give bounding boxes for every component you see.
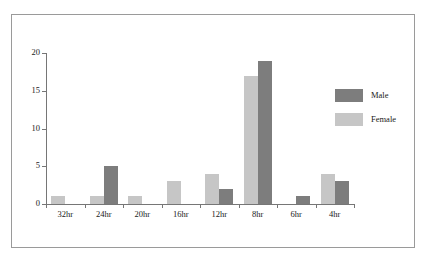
y-tick-label: 10 [32, 123, 41, 134]
bar-group-20hr [123, 53, 162, 204]
legend-label-male: Male [371, 90, 388, 101]
x-tick-mark [46, 204, 47, 208]
y-tick-label: 0 [36, 198, 40, 209]
legend-swatch-female [335, 113, 363, 126]
x-tick-mark [277, 204, 278, 208]
bar-group-8hr [239, 53, 278, 204]
bar-group-32hr [46, 53, 85, 204]
x-axis-label-8hr: 8hr [239, 209, 278, 220]
bar-group-4hr [316, 53, 355, 204]
bar-group-24hr [85, 53, 124, 204]
x-axis-label-4hr: 4hr [316, 209, 355, 220]
bar-20hr-female [128, 196, 142, 204]
legend-swatch-male [335, 89, 363, 102]
bar-group-16hr [162, 53, 201, 204]
x-tick-mark [85, 204, 86, 208]
x-axis-label-12hr: 12hr [200, 209, 239, 220]
bar-24hr-male [104, 166, 118, 204]
bar-24hr-female [90, 196, 104, 204]
bar-32hr-female [51, 196, 65, 204]
y-tick-label: 5 [36, 160, 40, 171]
x-axis-label-32hr: 32hr [46, 209, 85, 220]
bar-8hr-female [244, 76, 258, 204]
x-tick-mark [354, 204, 355, 208]
bar-12hr-female [205, 174, 219, 204]
bar-8hr-male [258, 61, 272, 204]
bar-6hr-male [296, 196, 310, 204]
bar-16hr-female [167, 181, 181, 204]
y-tick-label: 20 [32, 47, 41, 58]
x-axis-label-24hr: 24hr [85, 209, 124, 220]
x-tick-mark [239, 204, 240, 208]
x-tick-mark [123, 204, 124, 208]
x-axis-label-20hr: 20hr [123, 209, 162, 220]
x-axis-label-6hr: 6hr [277, 209, 316, 220]
x-tick-mark [200, 204, 201, 208]
x-tick-mark [162, 204, 163, 208]
x-tick-mark [316, 204, 317, 208]
legend-label-female: Female [371, 114, 396, 125]
x-axis-label-16hr: 16hr [162, 209, 201, 220]
plot-area: 05101520 32hr24hr20hr16hr12hr8hr6hr4hr [46, 53, 354, 204]
chart-figure: 05101520 32hr24hr20hr16hr12hr8hr6hr4hr M… [11, 14, 415, 248]
bar-4hr-female [321, 174, 335, 204]
bar-12hr-male [219, 189, 233, 204]
bar-group-6hr [277, 53, 316, 204]
y-tick-label: 15 [32, 85, 41, 96]
bar-4hr-male [335, 181, 349, 204]
bar-group-12hr [200, 53, 239, 204]
